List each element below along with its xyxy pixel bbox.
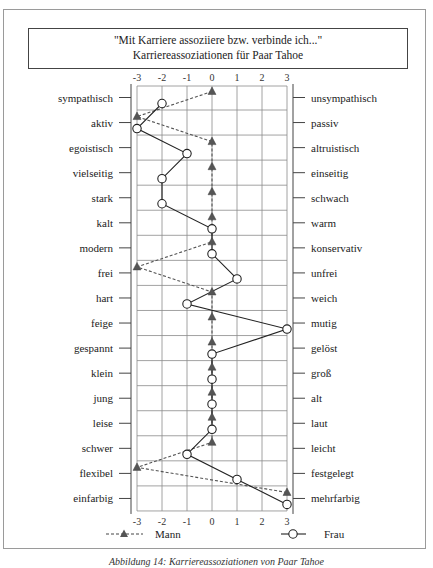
circle-marker-icon bbox=[208, 375, 216, 383]
x-tick-label-top: 2 bbox=[260, 72, 265, 83]
right-pole-label: unfrei bbox=[311, 267, 337, 279]
circle-marker-icon bbox=[158, 200, 166, 208]
circle-marker-icon bbox=[283, 325, 291, 333]
left-pole-label: klein bbox=[91, 367, 113, 379]
x-tick-label-bottom: -3 bbox=[133, 516, 141, 527]
right-pole-label: schwach bbox=[311, 192, 349, 204]
triangle-marker-icon bbox=[208, 87, 216, 95]
circle-marker-icon bbox=[208, 250, 216, 258]
left-pole-label: gespannt bbox=[74, 342, 113, 354]
left-pole-label: einfarbig bbox=[73, 492, 113, 504]
x-tick-label-bottom: 1 bbox=[235, 516, 240, 527]
circle-marker-icon bbox=[208, 225, 216, 233]
right-pole-label: leicht bbox=[311, 442, 335, 454]
triangle-marker-icon bbox=[133, 463, 141, 471]
circle-marker-icon bbox=[283, 500, 291, 508]
circle-marker-icon bbox=[233, 275, 241, 283]
circle-marker-icon bbox=[208, 425, 216, 433]
left-pole-label: stark bbox=[92, 192, 114, 204]
x-tick-label-top: -1 bbox=[183, 72, 191, 83]
x-tick-label-bottom: -1 bbox=[183, 516, 191, 527]
left-pole-label: jung bbox=[92, 392, 113, 404]
circle-marker-icon bbox=[233, 475, 241, 483]
left-pole-label: hart bbox=[96, 292, 113, 304]
x-tick-label-top: 0 bbox=[210, 72, 215, 83]
left-pole-label: vielseitig bbox=[73, 167, 114, 179]
triangle-marker-icon bbox=[208, 187, 216, 195]
x-tick-label-top: -2 bbox=[158, 72, 166, 83]
left-pole-label: kalt bbox=[97, 217, 114, 229]
triangle-marker-icon bbox=[208, 363, 216, 371]
circle-marker-icon bbox=[158, 174, 166, 182]
circle-marker-icon bbox=[183, 300, 191, 308]
right-pole-label: laut bbox=[311, 417, 328, 429]
x-tick-label-top: 3 bbox=[285, 72, 290, 83]
x-tick-label-top: 1 bbox=[235, 72, 240, 83]
circle-marker-icon bbox=[183, 149, 191, 157]
left-pole-label: flexibel bbox=[79, 467, 113, 479]
circle-marker-icon bbox=[133, 124, 141, 132]
legend-triangle-icon bbox=[120, 530, 128, 538]
right-pole-label: groß bbox=[311, 367, 332, 379]
right-pole-label: gelöst bbox=[311, 342, 337, 354]
left-pole-label: egoistisch bbox=[69, 142, 113, 154]
left-pole-label: frei bbox=[98, 267, 113, 279]
x-tick-label-bottom: 2 bbox=[260, 516, 265, 527]
right-pole-label: alt bbox=[311, 392, 322, 404]
x-tick-label-top: -3 bbox=[133, 72, 141, 83]
x-tick-label-bottom: -2 bbox=[158, 516, 166, 527]
legend-circle-icon bbox=[289, 530, 297, 538]
left-pole-label: modern bbox=[79, 242, 113, 254]
right-pole-label: mutig bbox=[311, 317, 337, 329]
circle-marker-icon bbox=[183, 450, 191, 458]
figure-caption: Abbildung 14: Karriereassoziationen von … bbox=[0, 556, 433, 567]
triangle-marker-icon bbox=[208, 388, 216, 396]
left-pole-label: schwer bbox=[82, 442, 113, 454]
x-tick-label-bottom: 3 bbox=[285, 516, 290, 527]
right-pole-label: weich bbox=[311, 292, 338, 304]
circle-marker-icon bbox=[158, 99, 166, 107]
right-pole-label: warm bbox=[311, 217, 336, 229]
right-pole-label: altruistisch bbox=[311, 142, 360, 154]
legend-label-frau: Frau bbox=[324, 528, 345, 540]
triangle-marker-icon bbox=[208, 162, 216, 170]
triangle-marker-icon bbox=[208, 237, 216, 245]
triangle-marker-icon bbox=[208, 413, 216, 421]
right-pole-label: einseitig bbox=[311, 167, 349, 179]
triangle-marker-icon bbox=[133, 262, 141, 270]
triangle-marker-icon bbox=[208, 438, 216, 446]
circle-marker-icon bbox=[208, 350, 216, 358]
left-pole-label: aktiv bbox=[91, 117, 113, 129]
chart-canvas: -3-3-2-2-1-100112233sympathischaktivegoi… bbox=[0, 0, 433, 568]
triangle-marker-icon bbox=[208, 338, 216, 346]
triangle-marker-icon bbox=[208, 313, 216, 321]
right-pole-label: passiv bbox=[311, 117, 339, 129]
x-tick-label-bottom: 0 bbox=[210, 516, 215, 527]
circle-marker-icon bbox=[208, 400, 216, 408]
right-pole-label: mehrfarbig bbox=[311, 492, 360, 504]
right-pole-label: unsympathisch bbox=[311, 92, 377, 104]
left-pole-label: sympathisch bbox=[58, 92, 113, 104]
left-pole-label: feige bbox=[91, 317, 113, 329]
right-pole-label: konservativ bbox=[311, 242, 363, 254]
legend-label-mann: Mann bbox=[155, 528, 181, 540]
triangle-marker-icon bbox=[208, 287, 216, 295]
right-pole-label: festgelegt bbox=[311, 467, 354, 479]
triangle-marker-icon bbox=[208, 212, 216, 220]
left-pole-label: leise bbox=[93, 417, 113, 429]
